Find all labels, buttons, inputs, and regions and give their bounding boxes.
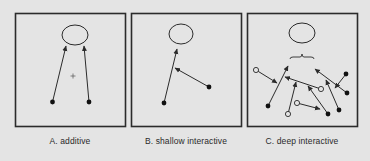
open-node [285, 111, 290, 116]
open-node [294, 100, 299, 105]
outcome-ellipse [62, 25, 88, 45]
caption-deep-interactive: C. deep interactive [247, 136, 357, 146]
panel-additive [16, 14, 126, 127]
arrow [256, 70, 277, 83]
arrow [285, 77, 321, 89]
arrow [288, 82, 296, 114]
panel-deep-interactive [248, 14, 358, 127]
panel-shallow-interactive [132, 14, 242, 127]
open-node [318, 86, 323, 91]
arrow [175, 68, 209, 87]
outcome-ellipse [289, 23, 315, 43]
filled-node [207, 85, 212, 90]
outcome-ellipse [169, 24, 193, 44]
arrow [53, 46, 67, 102]
filled-node [266, 104, 271, 109]
filled-node [326, 112, 331, 117]
arrow [308, 86, 328, 114]
arrow [164, 49, 177, 103]
filled-node [337, 108, 342, 113]
caption-shallow-interactive: B. shallow interactive [131, 136, 241, 146]
arrow [297, 103, 320, 109]
brace-icon [290, 54, 314, 59]
filled-node [344, 72, 349, 77]
caption-additive: A. additive [15, 136, 125, 146]
arrow [335, 74, 346, 88]
panel-frame [132, 14, 242, 127]
filled-node [345, 91, 350, 96]
plus-icon [71, 74, 76, 79]
open-node [253, 67, 258, 72]
filled-node [87, 100, 92, 105]
arrow [84, 46, 89, 102]
filled-node [162, 101, 167, 106]
panel-frame [16, 14, 126, 127]
arrow [326, 80, 339, 110]
filled-node [50, 100, 55, 105]
arrow [268, 66, 288, 106]
